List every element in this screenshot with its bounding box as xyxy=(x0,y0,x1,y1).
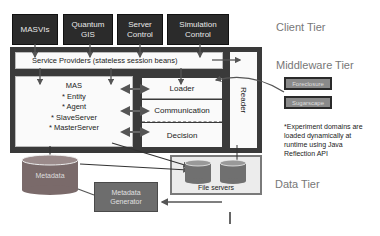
client-arrows xyxy=(35,44,240,84)
file-server-cylinders xyxy=(185,160,246,184)
diagram-overlay xyxy=(0,0,380,236)
mas-module-arrows xyxy=(122,89,148,132)
domain-to-loader-arrow xyxy=(216,77,284,92)
metadata-label: Metadata xyxy=(22,172,78,179)
